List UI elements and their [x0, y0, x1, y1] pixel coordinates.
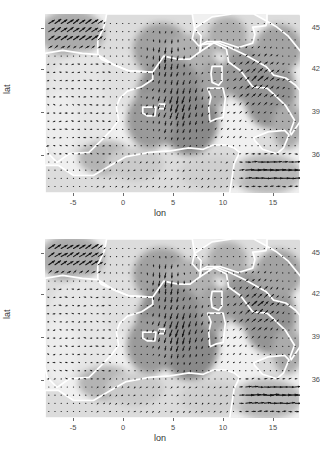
lower-x-axis: -5 0 5 10 15 lon: [0, 225, 320, 451]
x-tick-label-15: 15: [261, 423, 285, 432]
x-tick-mark-10: [223, 193, 224, 196]
x-tick-label-10: 10: [211, 198, 235, 207]
lower-vector-field-panel: 45 42 39 36 lat -5 0 5 10 15 lon: [0, 225, 320, 451]
vector-field-figure: 45 42 39 36 lat -5 0 5 10 15 lon: [0, 0, 320, 451]
x-tick-label-0: 0: [111, 198, 135, 207]
x-tick-mark-15: [273, 418, 274, 421]
x-tick-mark-15: [273, 193, 274, 196]
x-tick-label-neg5: -5: [61, 198, 85, 207]
x-tick-label-10: 10: [211, 423, 235, 432]
x-tick-mark-5: [173, 193, 174, 196]
x-tick-label-5: 5: [161, 423, 185, 432]
x-tick-mark-neg5: [73, 418, 74, 421]
x-tick-label-5: 5: [161, 198, 185, 207]
x-tick-mark-0: [123, 418, 124, 421]
x-tick-label-15: 15: [261, 198, 285, 207]
upper-vector-field-panel: 45 42 39 36 lat -5 0 5 10 15 lon: [0, 0, 320, 226]
x-axis-title: lon: [0, 208, 320, 219]
x-tick-mark-0: [123, 193, 124, 196]
x-tick-label-neg5: -5: [61, 423, 85, 432]
upper-x-axis: -5 0 5 10 15 lon: [0, 0, 320, 226]
x-tick-mark-5: [173, 418, 174, 421]
x-axis-title: lon: [0, 433, 320, 444]
x-tick-mark-10: [223, 418, 224, 421]
x-tick-mark-neg5: [73, 193, 74, 196]
x-tick-label-0: 0: [111, 423, 135, 432]
